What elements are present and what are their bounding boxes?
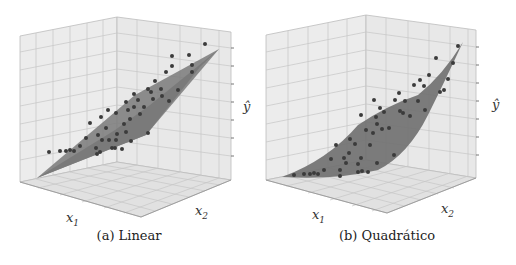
caption-b: (b) Quadrático bbox=[258, 228, 516, 243]
plot-3d-quadratic bbox=[258, 0, 516, 265]
caption-a: (a) Linear bbox=[0, 228, 258, 243]
figure-b-quadratic: x1 x2 ŷ (b) Quadrático bbox=[258, 0, 516, 265]
figure-a-linear: x1 x2 ŷ (a) Linear bbox=[0, 0, 258, 265]
yhat-axis-label: ŷ bbox=[492, 97, 499, 112]
yhat-axis-label: ŷ bbox=[243, 99, 250, 114]
x2-axis-label: x2 bbox=[441, 201, 454, 219]
x1-axis-label: x1 bbox=[312, 207, 325, 225]
x1-axis-label: x1 bbox=[66, 210, 79, 228]
x2-axis-label: x2 bbox=[195, 203, 208, 221]
plot-3d-linear bbox=[0, 0, 258, 265]
